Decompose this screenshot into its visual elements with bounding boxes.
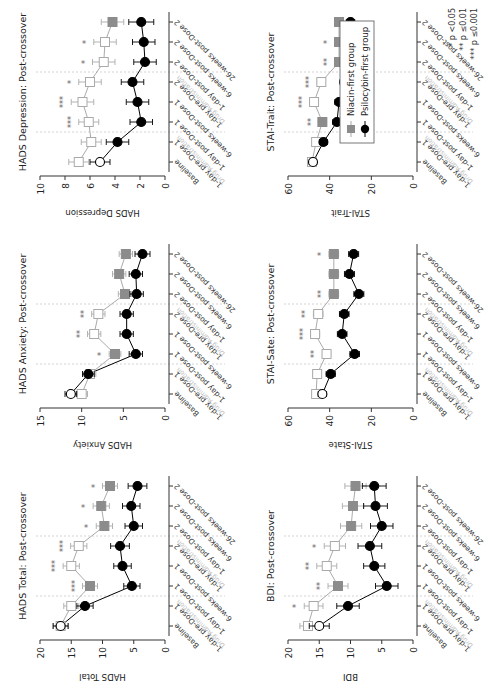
y-tick-label: 20 (367, 183, 377, 195)
y-tick-label: 5 (377, 647, 387, 653)
significance-marker: * (82, 40, 91, 44)
niacin-point (121, 250, 130, 259)
y-tick-label: 10 (98, 647, 108, 659)
niacin-point (67, 602, 76, 611)
psilocybin-point (318, 390, 327, 399)
figure-canvas: HADS Total: Post-crossover05101520HADS T… (0, 0, 488, 698)
figure-rotated: HADS Total: Post-crossover05101520HADS T… (0, 0, 488, 698)
y-tick-label: 15 (67, 647, 77, 658)
significance-marker: * (67, 80, 76, 84)
y-tick-label: 40 (325, 183, 335, 195)
significance-marker: *** (305, 76, 314, 88)
niacin-point (101, 38, 110, 47)
significance-key-item: ** p ≤0.01 (459, 8, 468, 51)
legend-niacin-marker (347, 125, 355, 133)
niacin-point (329, 290, 338, 299)
psilocybin-point (370, 482, 379, 491)
niacin-point (100, 522, 109, 531)
psilocybin-point (81, 602, 90, 611)
y-tick-label: 0 (409, 183, 419, 189)
legend-psilocybin-marker (361, 125, 369, 133)
psilocybin-point (137, 118, 146, 127)
significance-marker: ** (317, 290, 326, 298)
panel-title: BDI: Post-crossover (265, 510, 276, 602)
psilocybin-point (127, 502, 136, 511)
niacin-point (94, 310, 103, 319)
significance-marker: * (81, 60, 90, 64)
y-tick-label: 0 (161, 647, 171, 653)
niacin-point (67, 562, 76, 571)
niacin-point (311, 330, 320, 339)
psilocybin-point (354, 290, 363, 299)
niacin-point (347, 522, 356, 531)
psilocybin-point (141, 58, 150, 67)
significance-marker: * (317, 252, 326, 256)
significance-marker: *** (51, 560, 60, 572)
significance-marker: ** (80, 310, 89, 318)
legend-niacin-label: Niacin-first group (346, 43, 356, 116)
y-tick-label: 5 (129, 647, 139, 653)
y-tick-label: 15 (315, 647, 325, 658)
niacin-point (84, 118, 93, 127)
significance-marker: * (84, 524, 93, 528)
y-tick-label: 15 (36, 415, 46, 426)
niacin-point (115, 270, 124, 279)
y-axis-label: BDI (343, 672, 358, 682)
psilocybin-point (133, 98, 142, 107)
psilocybin-point (139, 38, 148, 47)
psilocybin-point (96, 158, 105, 167)
y-tick-label: 0 (161, 183, 171, 189)
psilocybin-point (350, 350, 359, 359)
y-tick-label: 20 (36, 647, 46, 659)
significance-marker: *** (71, 580, 80, 592)
significance-marker: *** (59, 96, 68, 108)
niacin-point (322, 562, 331, 571)
niacin-point (111, 350, 120, 359)
panel-hads-total: HADS Total: Post-crossover05101520HADS T… (17, 476, 237, 682)
psilocybin-point (370, 562, 379, 571)
y-axis-label: HADS Total (79, 672, 126, 682)
significance-marker: * (323, 40, 332, 44)
panel-stai-state: STAI-Sate: Post-crossover0204060STAI-Sta… (265, 244, 485, 450)
significance-marker: ** (323, 58, 332, 66)
psilocybin-point (377, 522, 386, 531)
y-tick-label: 5 (119, 415, 129, 421)
significance-marker: ** (307, 118, 316, 126)
niacin-point (317, 78, 326, 87)
niacin-point (318, 118, 327, 127)
significance-key-item: * p <0.05 (448, 8, 457, 47)
psilocybin-point (127, 582, 136, 591)
panel-hads-anxiety: HADS Anxiety: Post-crossover051015HADS A… (17, 244, 237, 450)
niacin-point (313, 370, 322, 379)
y-tick-label: 0 (161, 415, 171, 421)
significance-marker: * (292, 604, 301, 608)
niacin-point (309, 602, 318, 611)
psilocybin-point (116, 542, 125, 551)
psilocybin-point (122, 310, 131, 319)
significance-marker: * (81, 504, 90, 508)
psilocybin-point (113, 138, 122, 147)
y-tick-label: 8 (61, 183, 71, 189)
y-tick-label: 0 (409, 647, 419, 653)
psilocybin-point (382, 582, 391, 591)
panel-hads-depression: HADS Depression: Post-crossover0246810HA… (17, 12, 237, 218)
niacin-point (74, 158, 83, 167)
significance-marker: * (97, 352, 106, 356)
niacin-point (77, 390, 86, 399)
y-axis-label: HADS Anxiety (73, 440, 132, 450)
psilocybin-point (128, 78, 137, 87)
panel-title: STAI-Sate: Post-crossover (265, 264, 276, 385)
y-tick-label: 60 (284, 183, 294, 195)
psilocybin-point (66, 390, 75, 399)
niacin-point (106, 482, 115, 491)
niacin-point (351, 482, 360, 491)
panel-bdi: BDI: Post-crossover05101520BDIBaseline1-… (265, 476, 485, 682)
psilocybin-point (133, 482, 142, 491)
niacin-point (86, 582, 95, 591)
niacin-point (330, 542, 339, 551)
significance-key-item: *** p ≤0.001 (470, 8, 479, 60)
niacin-point (99, 58, 108, 67)
niacin-point (121, 290, 130, 299)
y-tick-label: 40 (325, 415, 335, 427)
psilocybin-point (345, 270, 354, 279)
